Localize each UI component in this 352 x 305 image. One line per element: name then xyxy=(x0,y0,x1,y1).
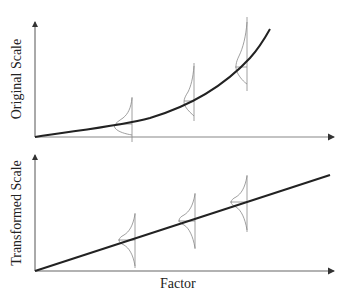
bottom-panel xyxy=(35,155,334,271)
top-distribution-1 xyxy=(114,97,132,142)
top-exponential-curve xyxy=(35,29,270,137)
x-axis-label: Factor xyxy=(160,276,196,292)
diagram-canvas xyxy=(0,0,352,305)
top-y-axis-label: Original Scale xyxy=(9,29,25,129)
top-panel xyxy=(35,17,334,142)
top-distribution-2 xyxy=(184,63,194,121)
top-distribution-3 xyxy=(235,17,247,91)
bottom-y-axis-label: Transformed Scale xyxy=(9,151,25,275)
bottom-linear-line xyxy=(35,175,330,271)
